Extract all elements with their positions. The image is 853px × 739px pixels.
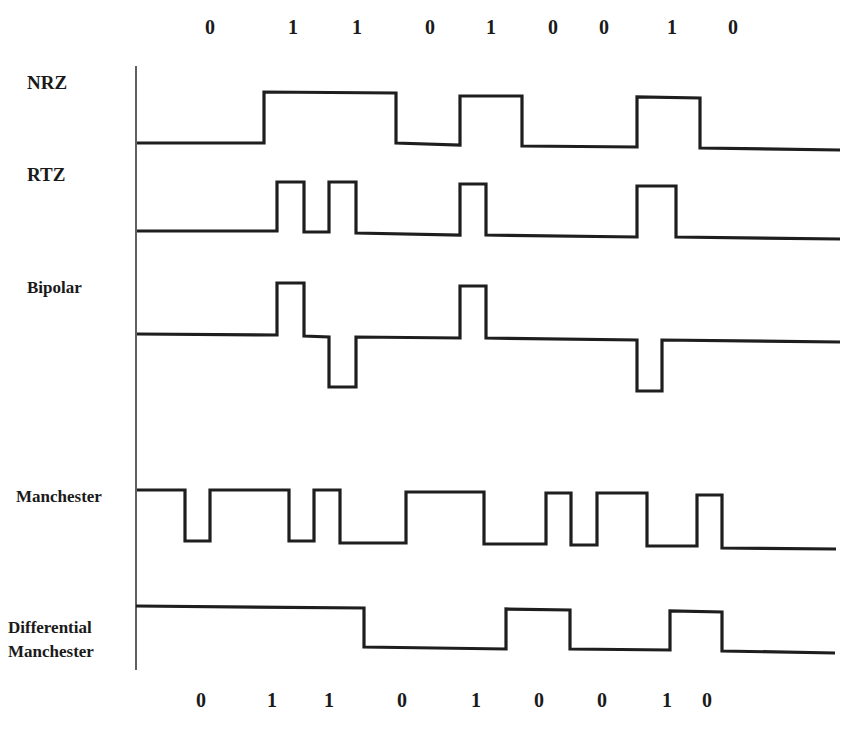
wave-nrz (137, 92, 840, 150)
wave-rtz (137, 182, 840, 239)
waveform-canvas (0, 0, 853, 739)
wave-differential-manchester (136, 606, 835, 653)
wave-manchester (137, 490, 836, 549)
wave-bipolar (137, 283, 840, 391)
